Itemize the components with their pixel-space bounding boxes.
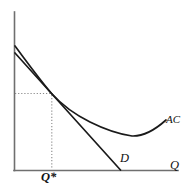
demand-curve xyxy=(15,53,121,170)
demand-curve-label: D xyxy=(120,152,129,165)
average-cost-curve-label: AC xyxy=(166,114,180,125)
curves-group xyxy=(15,46,166,170)
axes-group xyxy=(14,12,178,171)
diagram-canvas xyxy=(0,0,190,196)
economics-diagram-figure: AC D Q Q* xyxy=(0,0,190,196)
quantity-star-tick-label: Q* xyxy=(41,171,56,184)
guide-lines-group xyxy=(15,94,53,170)
x-axis-title-label: Q xyxy=(170,159,179,172)
average-cost-curve xyxy=(15,46,166,136)
